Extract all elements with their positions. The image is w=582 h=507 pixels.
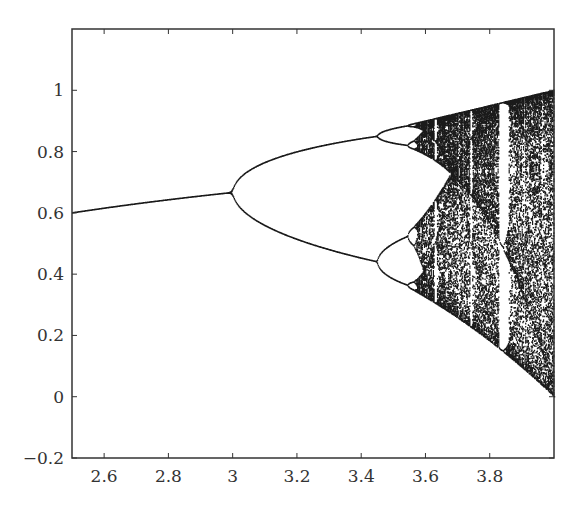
x-tick-label: 3.6 (412, 466, 439, 486)
y-axis-ticks: −0.200.20.40.60.81 (23, 80, 554, 468)
bifurcation-chart: 2.62.833.23.43.63.8 −0.200.20.40.60.81 (0, 0, 582, 507)
attractor-points (72, 90, 555, 396)
x-tick-label: 3.4 (348, 466, 375, 486)
y-tick-label: 0.4 (37, 264, 64, 284)
x-tick-label: 3.2 (283, 466, 310, 486)
plot-frame (72, 29, 554, 458)
x-tick-label: 2.6 (91, 466, 118, 486)
x-tick-label: 2.8 (155, 466, 182, 486)
y-tick-label: 0.2 (37, 325, 64, 345)
y-tick-label: 0 (53, 387, 64, 407)
y-tick-label: 0.6 (37, 203, 64, 223)
y-tick-label: 1 (53, 80, 64, 100)
y-tick-label: 0.8 (37, 142, 64, 162)
data-points (72, 90, 555, 396)
x-tick-label: 3 (227, 466, 238, 486)
x-tick-label: 3.8 (476, 466, 503, 486)
x-axis-ticks: 2.62.833.23.43.63.8 (91, 29, 504, 486)
y-tick-label: −0.2 (23, 448, 64, 468)
